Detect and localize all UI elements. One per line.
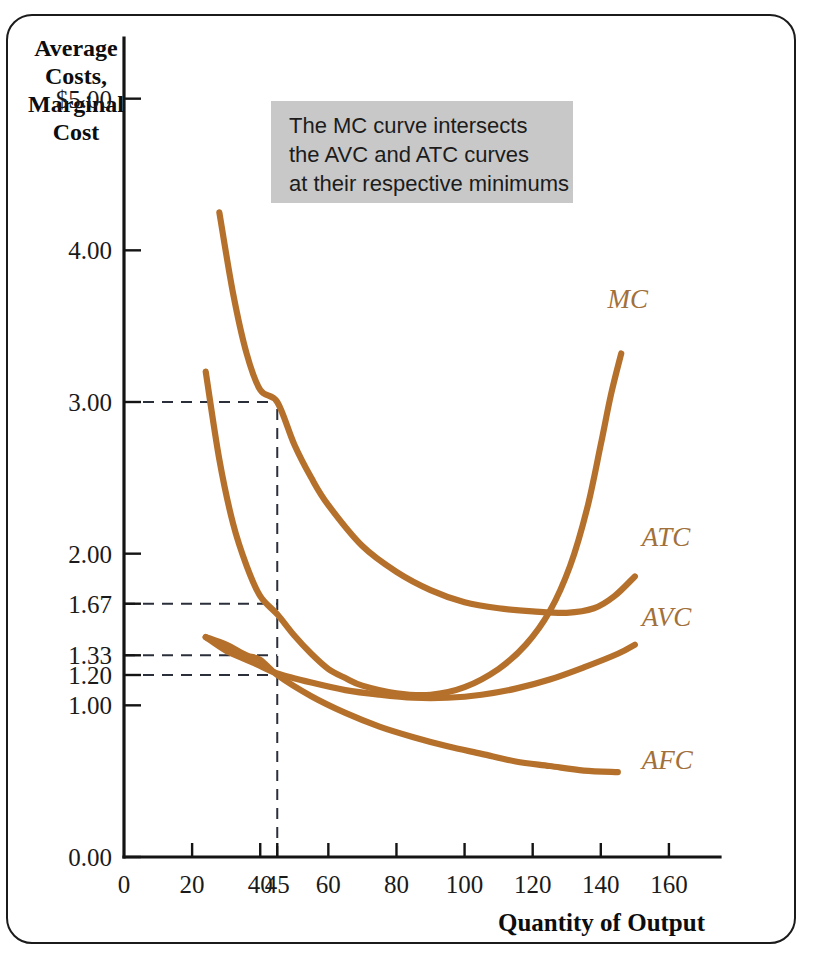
y-tick-label-8: $5.00 xyxy=(56,86,112,113)
curve-afc xyxy=(206,637,618,772)
annotation-line-2: at their respective minimums xyxy=(289,171,569,196)
x-tick-label-8: 140 xyxy=(582,871,620,898)
y-axis-title-line-0: Average xyxy=(34,35,118,61)
y-tick-label-4: 1.67 xyxy=(68,591,112,618)
y-axis-title-line-3: Cost xyxy=(53,119,100,145)
y-axis-ticks: 0.001.001.201.331.672.003.004.00$5.00 xyxy=(56,86,141,871)
annotation-box: The MC curve intersects the AVC and ATC … xyxy=(271,101,573,203)
reference-lines xyxy=(124,402,277,857)
x-tick-label-3: 45 xyxy=(265,871,290,898)
figure-frame: Average Costs, Marginal Cost The MC curv… xyxy=(6,14,796,944)
annotation-line-0: The MC curve intersects xyxy=(289,113,527,138)
curve-mc xyxy=(206,353,621,695)
cost-curves-chart: Average Costs, Marginal Cost The MC curv… xyxy=(8,16,794,942)
y-tick-label-1: 1.00 xyxy=(68,692,112,719)
annotation-line-1: the AVC and ATC curves xyxy=(289,142,529,167)
y-tick-label-3: 1.33 xyxy=(68,642,112,669)
curve-label-mc: MC xyxy=(607,284,649,314)
curve-label-avc: AVC xyxy=(640,602,693,632)
x-tick-label-0: 0 xyxy=(118,871,131,898)
figure-page: Average Costs, Marginal Cost The MC curv… xyxy=(0,0,829,977)
curve-label-atc: ATC xyxy=(640,522,692,552)
x-tick-label-9: 160 xyxy=(650,871,688,898)
cost-curves xyxy=(206,212,635,772)
x-tick-label-1: 20 xyxy=(180,871,205,898)
y-tick-label-0: 0.00 xyxy=(68,844,112,871)
x-tick-label-6: 100 xyxy=(446,871,484,898)
y-tick-label-6: 3.00 xyxy=(68,389,112,416)
y-tick-label-7: 4.00 xyxy=(68,237,112,264)
curve-label-afc: AFC xyxy=(640,745,694,775)
x-tick-label-4: 60 xyxy=(316,871,341,898)
y-tick-label-5: 2.00 xyxy=(68,541,112,568)
x-tick-label-5: 80 xyxy=(384,871,409,898)
x-axis-title: Quantity of Output xyxy=(498,909,706,936)
x-axis-ticks: 02040456080100120140160 xyxy=(118,843,688,898)
x-tick-label-7: 120 xyxy=(514,871,552,898)
